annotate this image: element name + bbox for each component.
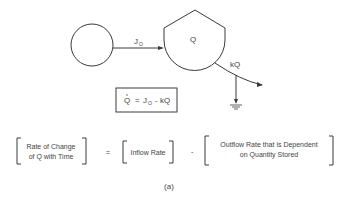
term1-line1: Rate of Change xyxy=(26,143,75,151)
equation-equals: = xyxy=(135,96,140,105)
bracket-right xyxy=(169,141,173,163)
word-equals: = xyxy=(106,149,110,156)
arrowhead-icon xyxy=(257,82,263,87)
term3-line2: on Quantity Stored xyxy=(240,151,298,159)
bracket-left xyxy=(123,141,127,163)
figure-caption: (a) xyxy=(164,182,174,191)
bracket-left xyxy=(205,136,209,165)
compartment-label: Q xyxy=(190,35,196,44)
equation-j-sub: O xyxy=(148,100,152,106)
term1-line2: of Q with Time xyxy=(29,153,74,161)
dot-icon xyxy=(126,94,127,95)
bracket-right xyxy=(329,136,333,165)
outflow-label: kQ xyxy=(230,60,240,69)
arrowhead-icon xyxy=(234,99,238,104)
arrowhead-icon xyxy=(158,46,164,50)
word-minus: - xyxy=(191,148,194,155)
inflow-label: J xyxy=(134,37,138,46)
compartment-diagram: J O Q kQ Q = J O - kQ Rate of Change of … xyxy=(0,0,347,199)
equation-minus-kq: - kQ xyxy=(155,96,170,105)
equation-j: J xyxy=(143,96,147,105)
inflow-subscript: O xyxy=(139,41,143,47)
term3-line1: Outflow Rate that is Dependent xyxy=(220,141,317,149)
term2: Inflow Rate xyxy=(130,149,165,156)
source-circle xyxy=(71,24,113,66)
q-dot: Q xyxy=(124,96,130,105)
ground-icon xyxy=(230,105,242,109)
bracket-left xyxy=(17,138,21,164)
bracket-right xyxy=(82,138,86,164)
